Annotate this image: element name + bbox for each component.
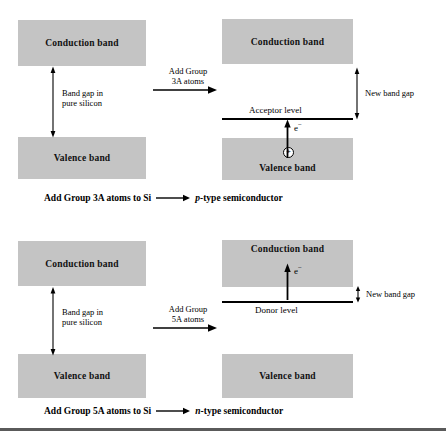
row2-caption: Add Group 5A atoms to Sin-type semicondu… <box>44 406 283 417</box>
row1-new-band-gap-arrow <box>355 68 360 120</box>
band-gap-note-line1: Band gap in <box>62 88 103 98</box>
band-label: Conduction band <box>251 37 325 47</box>
caption-lead: Add Group 3A atoms to Si <box>44 193 151 203</box>
band-gap-note-line2: pure silicon <box>62 317 102 327</box>
row2-new-band-gap-arrow <box>356 286 360 303</box>
caption-result-rest: -type semiconductor <box>200 193 283 203</box>
band-label: Valence band <box>54 371 111 381</box>
band-label: Valence band <box>259 371 316 381</box>
semiconductor-doping-figure: Conduction band Valence band Band gap in… <box>0 0 446 434</box>
row2-process-label: Add Group 5A atoms <box>158 304 218 324</box>
row1-band-gap-note: Band gap in pure silicon <box>62 88 103 108</box>
page-bottom-rule <box>0 428 446 431</box>
row1-acceptor-level-label: Acceptor level <box>249 105 302 115</box>
row2-left-valence-band: Valence band <box>18 354 146 398</box>
band-label: Conduction band <box>251 244 325 254</box>
band-label: Valence band <box>259 163 316 173</box>
row1-left-valence-band: Valence band <box>18 137 146 179</box>
row2-new-band-gap-note: New band gap <box>366 289 415 299</box>
row2-donor-level-label: Donor level <box>255 305 298 315</box>
process-label-line1: Add Group <box>169 304 207 314</box>
electron-charge-superscript: − <box>298 264 302 272</box>
process-label-line1: Add Group <box>169 66 207 76</box>
row1-caption: Add Group 3A atoms to Sip-type semicondu… <box>44 193 283 204</box>
process-label-line2: 3A atoms <box>172 76 204 86</box>
row2-donor-level-line <box>222 301 353 303</box>
caption-lead: Add Group 5A atoms to Si <box>44 406 151 416</box>
row1-new-band-gap-note: New band gap <box>365 88 414 98</box>
row1-electron-label: e− <box>294 121 302 133</box>
row1-acceptor-level-line <box>222 118 353 120</box>
row2-left-conduction-band: Conduction band <box>18 241 146 286</box>
row2-right-valence-band: Valence band <box>222 354 353 398</box>
row2-process-arrow <box>153 324 217 331</box>
band-label: Valence band <box>54 153 111 163</box>
row2-band-gap-note: Band gap in pure silicon <box>62 307 103 327</box>
row1-hole-charge-symbol: + <box>283 147 294 158</box>
caption-result-rest: -type semiconductor <box>201 406 284 416</box>
row1-right-conduction-band: Conduction band <box>222 19 353 64</box>
row1-right-valence-band: Valence band <box>222 138 353 180</box>
band-gap-note-line1: Band gap in <box>62 307 103 317</box>
row1-process-arrow <box>153 86 217 93</box>
row1-band-gap-arrow <box>51 67 56 138</box>
row2-electron-label: e− <box>294 264 302 276</box>
band-label: Conduction band <box>45 259 119 269</box>
process-label-line2: 5A atoms <box>172 314 204 324</box>
row1-left-conduction-band: Conduction band <box>18 20 146 66</box>
band-label: Conduction band <box>45 38 119 48</box>
row1-process-label: Add Group 3A atoms <box>158 66 218 86</box>
electron-charge-superscript: − <box>298 121 302 129</box>
reaction-arrow-icon <box>156 406 190 417</box>
reaction-arrow-icon <box>156 193 190 204</box>
row2-right-conduction-band: Conduction band <box>222 240 353 287</box>
row2-band-gap-arrow <box>51 287 56 356</box>
band-gap-note-line2: pure silicon <box>62 98 102 108</box>
